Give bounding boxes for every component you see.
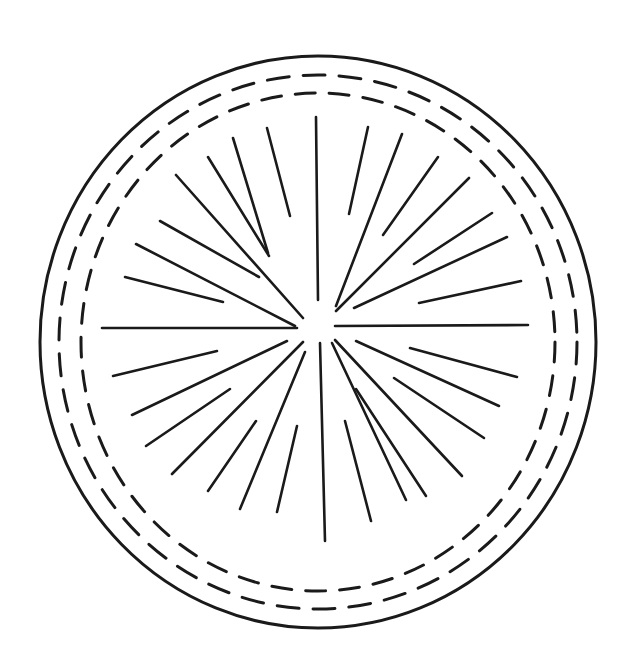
- ray-line: [335, 325, 528, 326]
- background: [0, 0, 629, 664]
- circular-line-drawing: [0, 0, 629, 664]
